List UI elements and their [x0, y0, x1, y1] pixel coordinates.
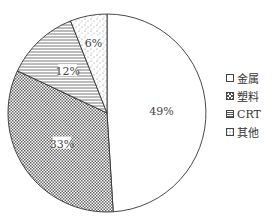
- slice-percent-label: 12%: [55, 65, 79, 78]
- legend-label: 其他: [237, 124, 259, 140]
- legend-item-other: 其他: [226, 123, 261, 141]
- slice-percent-label: 6%: [85, 37, 102, 50]
- legend: 金属 塑料 CRT 其他: [226, 69, 261, 141]
- legend-item-crt: CRT: [226, 105, 261, 123]
- dots-swatch-icon: [226, 128, 234, 136]
- blank-swatch-icon: [226, 74, 234, 82]
- legend-item-metal: 金属: [226, 69, 261, 87]
- legend-item-plastic: 塑料: [226, 87, 261, 105]
- slice-percent-label: 33%: [50, 138, 74, 151]
- legend-label: CRT: [237, 108, 261, 121]
- slice-percent-label: 49%: [149, 105, 173, 118]
- pie-slices: [8, 14, 206, 212]
- horizontal-lines-swatch-icon: [226, 110, 234, 118]
- legend-label: 塑料: [237, 88, 259, 104]
- legend-label: 金属: [237, 70, 259, 86]
- crosshatch-swatch-icon: [226, 92, 234, 100]
